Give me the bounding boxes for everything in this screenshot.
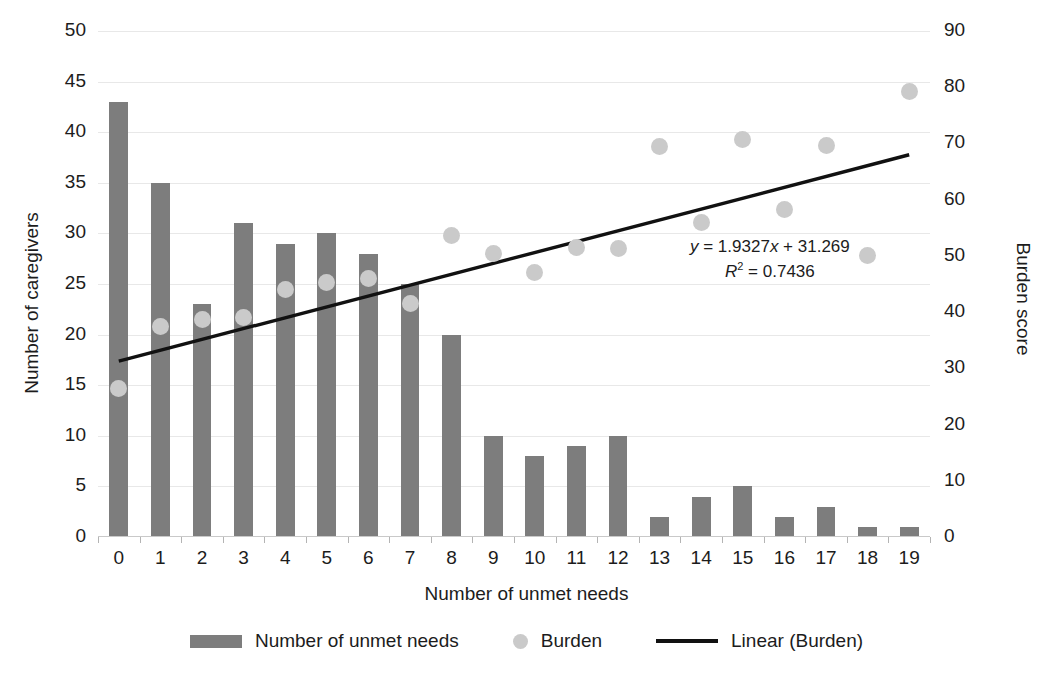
x-axis-tickmark xyxy=(639,537,640,543)
y-axis-right-title: Burden score xyxy=(1012,179,1034,419)
equation-line-2: R2 = 0.7436 xyxy=(690,259,850,284)
x-axis-tick-label: 12 xyxy=(598,547,638,569)
y-axis-left-tick-label: 40 xyxy=(40,120,86,142)
scatter-point xyxy=(901,83,918,100)
scatter-point xyxy=(235,309,252,326)
scatter-point xyxy=(110,380,127,397)
x-axis-tickmark xyxy=(805,537,806,543)
y-axis-right-tick-label: 40 xyxy=(944,300,990,322)
chart-container: Number of caregivers Burden score Number… xyxy=(0,0,1053,675)
y-axis-right-tick-label: 20 xyxy=(944,413,990,435)
scatter-point xyxy=(277,281,294,298)
x-axis-tickmark xyxy=(514,537,515,543)
scatter-point xyxy=(693,214,710,231)
x-axis-tickmark xyxy=(556,537,557,543)
y-axis-left-title: Number of caregivers xyxy=(21,163,43,443)
plot-area xyxy=(98,31,930,537)
x-axis-tick-label: 15 xyxy=(723,547,763,569)
trendline-equation: y = 1.9327x + 31.269 R2 = 0.7436 xyxy=(690,236,850,284)
legend-item-label: Linear (Burden) xyxy=(731,630,863,652)
equation-line-1: y = 1.9327x + 31.269 xyxy=(690,236,850,259)
equation-rest: = 1.9327 xyxy=(699,237,770,256)
legend-item[interactable]: Linear (Burden) xyxy=(656,630,863,652)
y-axis-right-tick-label: 0 xyxy=(944,525,990,547)
y-axis-right-tick-label: 80 xyxy=(944,75,990,97)
x-axis-tick-label: 8 xyxy=(432,547,472,569)
scatter-point xyxy=(402,295,419,312)
y-axis-right-tick-label: 60 xyxy=(944,188,990,210)
legend-dot-swatch-icon xyxy=(513,634,528,649)
equation-r-symbol: R xyxy=(725,262,737,281)
legend-item-label: Number of unmet needs xyxy=(255,630,459,652)
x-axis-tickmark xyxy=(223,537,224,543)
y-axis-left-tick-label: 5 xyxy=(40,474,86,496)
x-axis-tickmark xyxy=(472,537,473,543)
x-axis-tickmark xyxy=(431,537,432,543)
scatter-point xyxy=(610,240,627,257)
legend-bar-swatch-icon xyxy=(190,635,242,648)
y-axis-left-tick-label: 35 xyxy=(40,171,86,193)
legend-item[interactable]: Number of unmet needs xyxy=(190,630,459,652)
x-axis-tickmark xyxy=(140,537,141,543)
equation-y-symbol: y xyxy=(690,237,699,256)
scatter-point xyxy=(152,318,169,335)
x-axis-tick-label: 7 xyxy=(390,547,430,569)
x-axis-tickmark xyxy=(264,537,265,543)
y-axis-right-tick-label: 50 xyxy=(944,244,990,266)
scatter-point xyxy=(485,245,502,262)
x-axis-tick-label: 13 xyxy=(640,547,680,569)
x-axis-tick-label: 1 xyxy=(140,547,180,569)
x-axis-tickmark xyxy=(722,537,723,543)
y-axis-left-tick-label: 10 xyxy=(40,424,86,446)
y-axis-left-tick-label: 25 xyxy=(40,272,86,294)
scatter-point xyxy=(818,137,835,154)
x-axis-tick-label: 5 xyxy=(307,547,347,569)
x-axis-tick-label: 14 xyxy=(681,547,721,569)
scatter-point xyxy=(651,138,668,155)
x-axis-tickmark xyxy=(98,537,99,543)
x-axis-tick-label: 9 xyxy=(473,547,513,569)
y-axis-left-tick-label: 15 xyxy=(40,373,86,395)
x-axis-tickmark xyxy=(680,537,681,543)
x-axis-tickmark xyxy=(389,537,390,543)
y-axis-right-tick-label: 90 xyxy=(944,19,990,41)
x-axis-tickmark xyxy=(930,537,931,543)
y-axis-right-tick-label: 10 xyxy=(944,469,990,491)
x-axis-tick-label: 10 xyxy=(515,547,555,569)
x-axis-tick-label: 4 xyxy=(265,547,305,569)
y-axis-left-tick-label: 30 xyxy=(40,221,86,243)
trendline-series xyxy=(98,31,930,537)
x-axis-tick-label: 2 xyxy=(182,547,222,569)
legend-item-label: Burden xyxy=(541,630,602,652)
x-axis-tickmark xyxy=(181,537,182,543)
y-axis-right-tick-label: 30 xyxy=(944,356,990,378)
y-axis-left-tick-label: 20 xyxy=(40,323,86,345)
y-axis-left-tick-label: 45 xyxy=(40,70,86,92)
x-axis-tick-label: 18 xyxy=(848,547,888,569)
x-axis-tick-label: 17 xyxy=(806,547,846,569)
x-axis-tickmark xyxy=(348,537,349,543)
y-axis-right-tick-label: 70 xyxy=(944,131,990,153)
y-axis-left-tick-label: 0 xyxy=(40,525,86,547)
x-axis-tick-label: 6 xyxy=(348,547,388,569)
scatter-point xyxy=(194,311,211,328)
x-axis-tick-label: 0 xyxy=(99,547,139,569)
legend-line-swatch-icon xyxy=(656,639,718,643)
x-axis-tick-label: 3 xyxy=(224,547,264,569)
x-axis-tickmark xyxy=(597,537,598,543)
equation-r-rest: = 0.7436 xyxy=(743,262,814,281)
x-axis-tick-label: 11 xyxy=(556,547,596,569)
x-axis-tickmark xyxy=(306,537,307,543)
x-axis-tickmark xyxy=(764,537,765,543)
x-axis-tick-label: 19 xyxy=(889,547,929,569)
x-axis-title: Number of unmet needs xyxy=(0,583,1053,605)
equation-tail: + 31.269 xyxy=(778,237,849,256)
chart-legend: Number of unmet needsBurdenLinear (Burde… xyxy=(0,630,1053,652)
x-axis-tickmark xyxy=(888,537,889,543)
y-axis-left-tick-label: 50 xyxy=(40,19,86,41)
x-axis-line xyxy=(98,536,930,537)
x-axis-tick-label: 16 xyxy=(764,547,804,569)
scatter-point xyxy=(568,239,585,256)
legend-item[interactable]: Burden xyxy=(513,630,602,652)
x-axis-tickmark xyxy=(847,537,848,543)
